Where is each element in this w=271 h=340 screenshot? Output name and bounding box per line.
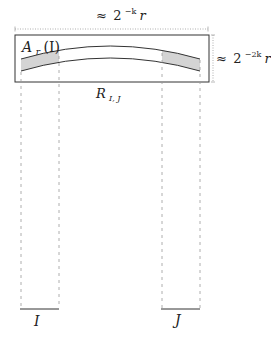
height-label: ≈ 2 −2k r: [216, 45, 271, 66]
diagram-canvas: ≈ 2 −k r ≈ 2 −2k r A r (I) R I, J I J: [0, 0, 271, 340]
interval-label-j: J: [172, 312, 182, 328]
interval-label-i: I: [33, 313, 40, 329]
rectangle-label: R I, J: [95, 86, 121, 103]
width-label: ≈ 2 −k r: [96, 2, 147, 23]
